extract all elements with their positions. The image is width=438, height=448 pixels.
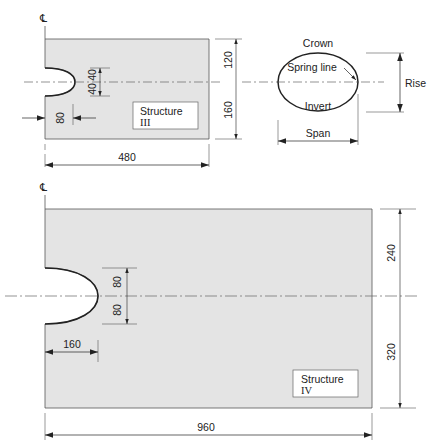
dim-notch-upper-iii: 40 [86, 69, 98, 81]
structure-iv-roman: IV [301, 385, 312, 396]
dim-width-iv: 960 [197, 421, 215, 433]
structure-iv: ℄ 80 80 160 Structure IV 240 320 960 [5, 181, 420, 440]
structure-iii: ℄ 40 40 80 Structure III 120 160 [22, 12, 242, 167]
centerline-symbol-iii: ℄ [39, 12, 47, 24]
rise-label: Rise [405, 77, 426, 89]
structure-iii-roman: III [140, 117, 151, 128]
dim-notch-depth-iii: 80 [54, 112, 66, 124]
dim-notch-depth-iv: 160 [63, 338, 81, 350]
dim-top-half-iv: 240 [385, 244, 397, 262]
dim-notch-lower-iii: 40 [86, 83, 98, 95]
dim-notch-lower-iv: 80 [111, 304, 123, 316]
culvert-section: Crown Spring line Invert Rise Span [242, 37, 426, 145]
dim-notch-upper-iv: 80 [111, 276, 123, 288]
span-label: Span [306, 127, 331, 139]
dim-bottom-half-iv: 320 [385, 343, 397, 361]
dim-bottom-half-iii: 160 [222, 101, 234, 119]
invert-label: Invert [305, 100, 331, 112]
crown-label: Crown [303, 37, 334, 49]
culvert-structures-diagram: ℄ 40 40 80 Structure III 120 160 [0, 0, 438, 448]
structure-iv-label: Structure [301, 373, 344, 385]
dim-top-half-iii: 120 [222, 51, 234, 69]
centerline-symbol-iv: ℄ [39, 181, 47, 193]
dim-width-iii: 480 [118, 151, 136, 163]
structure-iii-label: Structure [140, 105, 183, 117]
spring-line-label: Spring line [287, 61, 337, 73]
